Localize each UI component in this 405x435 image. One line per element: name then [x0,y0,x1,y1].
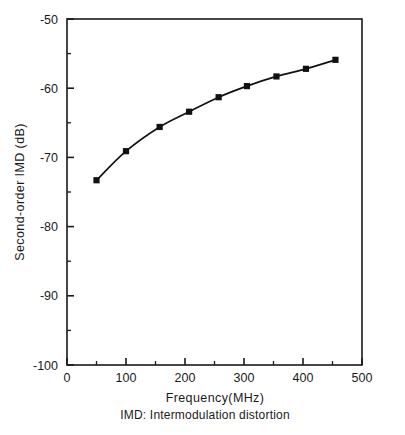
data-point-marker [273,73,279,79]
plot-frame [67,19,362,365]
x-axis-title: Frequency(MHz) [166,391,265,405]
x-axis-tick-label: 200 [175,371,196,385]
x-axis-tick-label: 500 [352,371,373,385]
y-axis-tick-label: -80 [40,220,58,234]
x-axis-tick-label: 400 [293,371,314,385]
chart-caption: IMD: Intermodulation distortion [120,408,290,422]
y-axis-tick-label: -100 [33,359,58,373]
y-axis-tick-label: -50 [40,13,58,27]
data-point-marker [157,124,163,130]
x-axis-tick-label: 300 [234,371,255,385]
data-point-marker [332,57,338,63]
y-axis-tick-label: -60 [40,82,58,96]
plot-area-border [67,19,362,365]
y-axis-title: Second-order IMD (dB) [13,123,27,261]
line-chart-svg: -50-60-70-80-90-100 0100200300400500 Sec… [0,0,405,435]
y-axis-tick-label: -90 [40,289,58,303]
data-point-marker [244,83,250,89]
data-point-marker [123,148,129,154]
data-point-marker [186,109,192,115]
data-point-marker [93,177,99,183]
data-point-marker [216,94,222,100]
x-axis-tick-label: 100 [116,371,137,385]
y-axis-tick-label: -70 [40,151,58,165]
x-axis-tick-label: 0 [64,371,71,385]
chart-figure: -50-60-70-80-90-100 0100200300400500 Sec… [0,0,405,435]
data-point-marker [303,66,309,72]
